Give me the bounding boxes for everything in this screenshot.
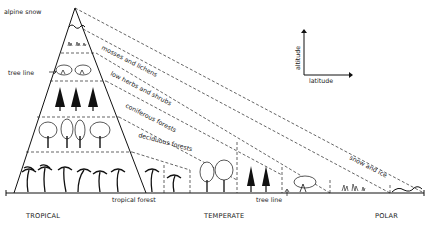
mountain [14, 8, 146, 193]
mosses-icon [68, 42, 86, 46]
tundra-shrub-icon [294, 176, 316, 192]
label-tropical-forest: tropical forest [112, 196, 156, 204]
arrow-up-icon [301, 29, 307, 33]
deciduous-icons-temperate [200, 160, 233, 192]
label-coniferous-forests: coniferous forests [125, 102, 178, 134]
label-altitude: altitude [294, 46, 301, 70]
label-temperate: TEMPERATE [203, 212, 244, 220]
biome-diagram: alpine snow tree line tree line tropical… [0, 0, 428, 225]
palm-tree-icons [22, 165, 181, 192]
deciduous-icons-mountain [39, 119, 110, 148]
label-snow-and-ice: snow and ice [349, 154, 389, 179]
conifer-icons-mountain [55, 87, 98, 111]
label-low-herbs-and-shrubs: low herbs and shrubs [110, 70, 173, 107]
label-tree-line-bottom: tree line [256, 196, 282, 203]
grass-icon [342, 184, 365, 191]
label-alpine-snow: alpine snow [4, 8, 42, 16]
label-latitude: latitude [309, 77, 333, 84]
label-tree-line-left: tree line [8, 69, 34, 76]
arrow-right-icon [349, 72, 353, 78]
conifer-icons-temperate [247, 166, 270, 192]
label-tropical: TROPICAL [25, 212, 60, 220]
tree-line-arrow-icon [49, 70, 56, 74]
shrub-icons [56, 65, 91, 75]
label-polar: POLAR [375, 212, 398, 220]
label-deciduous-forests: deciduous forests [138, 131, 194, 152]
axes-key: altitude latitude [294, 29, 353, 84]
